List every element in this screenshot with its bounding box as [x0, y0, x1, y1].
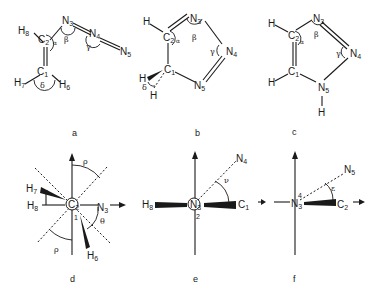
angle-gamma-arc	[341, 47, 345, 58]
bond-n4-n5-a	[203, 56, 222, 80]
dashed-n4	[198, 161, 236, 200]
bond-c1-h	[275, 74, 288, 81]
arrowhead-left-panel	[261, 199, 266, 205]
panel-f: N5 N3 4 C2 ε f	[258, 151, 365, 284]
label-delta: δ	[142, 83, 147, 92]
label-nu: ν	[224, 176, 229, 185]
atom-n4: N4	[89, 28, 100, 40]
figure-canvas: H8 C2 N3 N4 N5 C1 H7 H6 α β γ δ a H C2 N…	[0, 0, 373, 291]
bond-n4-n5	[324, 58, 348, 80]
atom-h7: H7	[14, 77, 25, 89]
arrowhead-right	[359, 199, 365, 205]
atom-h-left: H	[268, 77, 275, 88]
atom-h8: H8	[18, 25, 29, 37]
label-rho-lower: ρ	[54, 245, 59, 254]
bond-c2-n3	[296, 20, 312, 30]
panel-e: N4 H8 N3 2 C1 ν e	[142, 151, 249, 284]
label-theta: θ	[100, 217, 105, 226]
bond-c1-n5	[175, 72, 195, 82]
atom-h-top: H	[268, 18, 275, 29]
atom-n5: N5	[318, 82, 329, 94]
label-alpha: α	[176, 37, 180, 44]
atom-n4-front: 4	[298, 192, 302, 199]
label-delta: δ	[40, 81, 45, 90]
atom-n3: N3	[97, 202, 108, 214]
atom-h: H	[143, 16, 150, 27]
arrowhead-up	[292, 151, 298, 159]
panel-c: H C2 N3 N4 N5 C1 H H α β γ c	[268, 13, 361, 137]
atom-n4: N4	[350, 48, 361, 60]
arrowhead-up	[69, 153, 75, 161]
panel-b: H C2 N3 N4 N5 C1 H H α β γ δ b	[139, 13, 237, 138]
atom-h-hash: H	[150, 90, 157, 101]
bond-n3-n4	[205, 21, 222, 44]
panel-d: H7 H8 C2 1 N3 H6 ρ ρ φ θ d	[26, 153, 126, 284]
atom-n4: N4	[226, 46, 237, 58]
panel-a: H8 C2 N3 N4 N5 C1 H7 H6 α β γ δ a	[14, 15, 131, 138]
angle-rho-upper-arc	[72, 165, 100, 178]
label-phi: φ	[44, 187, 48, 195]
atom-n3: N3	[190, 13, 201, 25]
angle-delta-arc	[148, 82, 155, 86]
angle-beta-arc	[61, 28, 75, 35]
angle-rho-lower-arc	[50, 230, 72, 240]
bond-c1-n5	[300, 74, 316, 82]
atom-h6: H6	[87, 250, 98, 262]
atom-n3: N3	[62, 15, 73, 27]
caption-e: e	[193, 274, 198, 284]
label-alpha: α	[53, 39, 57, 46]
atom-h8: H8	[27, 200, 38, 212]
caption-d: d	[70, 274, 75, 284]
atom-c2: C2	[337, 199, 348, 211]
atom-c1: C1	[37, 66, 48, 78]
bond-h-c2	[275, 25, 288, 32]
wedge-bond-h	[147, 70, 163, 81]
wedge-h6	[80, 215, 90, 249]
atom-h8: H8	[142, 199, 153, 211]
bond-n4-n5-b	[206, 58, 225, 82]
atom-c2: C2	[163, 32, 174, 44]
caption-b: b	[195, 128, 200, 138]
atom-c1: C1	[164, 64, 175, 76]
bond-h-c2	[150, 24, 163, 32]
bond-n3-n4-b	[320, 25, 347, 49]
label-rho-upper: ρ	[83, 157, 88, 166]
wedge-c2	[304, 199, 336, 206]
label-gamma: γ	[210, 47, 215, 56]
bond-n3-n4-a	[322, 22, 349, 46]
atom-h-n5: H	[318, 107, 325, 118]
atom-h7: H7	[26, 183, 37, 195]
label-gamma: γ	[86, 42, 91, 51]
atom-c1: C1	[238, 199, 249, 211]
wedge-h8	[155, 202, 187, 208]
atom-n5: N5	[120, 46, 131, 58]
wedge-c1	[204, 201, 236, 209]
atom-c1: C1	[288, 66, 299, 78]
label-beta: β	[192, 33, 197, 42]
atom-h6: H6	[59, 79, 70, 91]
dashed-n5	[300, 174, 343, 200]
caption-f: f	[293, 274, 296, 284]
atom-n4: N4	[236, 153, 247, 165]
caption-c: c	[292, 127, 297, 137]
atom-c2-behind: 2	[196, 213, 200, 220]
atom-c1-behind: 1	[74, 214, 78, 221]
label-alpha: α	[300, 38, 304, 45]
label-gamma: γ	[336, 49, 341, 58]
label-beta: β	[64, 35, 69, 44]
label-epsilon: ε	[331, 184, 335, 193]
label-beta: β	[314, 30, 319, 39]
angle-gamma-arc	[217, 45, 219, 56]
caption-a: a	[72, 128, 77, 138]
arrowhead-right	[119, 202, 126, 208]
atom-n3: N3	[313, 13, 324, 25]
atom-n5: N5	[344, 164, 355, 176]
atom-n5: N5	[194, 80, 205, 92]
arrowhead-up	[192, 151, 198, 159]
